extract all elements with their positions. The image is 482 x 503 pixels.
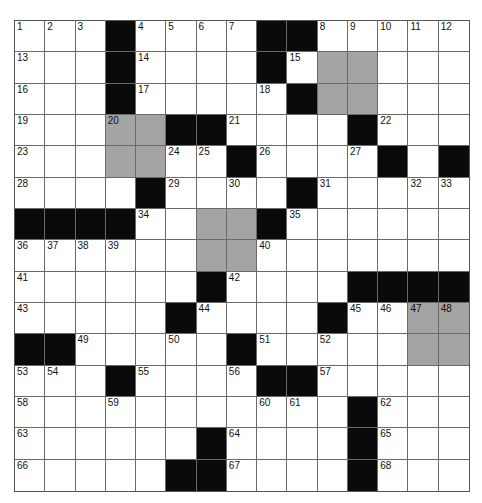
grid-cell[interactable]	[76, 146, 106, 177]
grid-cell[interactable]	[439, 366, 469, 397]
grid-cell[interactable]	[408, 366, 438, 397]
grid-cell[interactable]: 4	[136, 21, 166, 52]
grid-cell[interactable]: 6	[197, 21, 227, 52]
grid-cell[interactable]: 17	[136, 84, 166, 115]
grid-cell[interactable]	[166, 366, 196, 397]
grid-cell[interactable]	[76, 428, 106, 459]
grid-cell[interactable]: 53	[15, 366, 45, 397]
shaded-cell[interactable]: 48	[439, 303, 469, 334]
grid-cell[interactable]	[227, 303, 257, 334]
grid-cell[interactable]: 37	[45, 240, 75, 271]
grid-cell[interactable]: 33	[439, 178, 469, 209]
grid-cell[interactable]	[378, 209, 408, 240]
grid-cell[interactable]: 35	[287, 209, 317, 240]
shaded-cell[interactable]	[348, 52, 378, 83]
grid-cell[interactable]	[287, 334, 317, 365]
grid-cell[interactable]	[227, 52, 257, 83]
grid-cell[interactable]	[439, 460, 469, 491]
grid-cell[interactable]	[76, 178, 106, 209]
shaded-cell[interactable]: 47	[408, 303, 438, 334]
grid-cell[interactable]	[76, 397, 106, 428]
grid-cell[interactable]	[166, 52, 196, 83]
grid-cell[interactable]: 15	[287, 52, 317, 83]
grid-cell[interactable]	[348, 366, 378, 397]
grid-cell[interactable]: 21	[227, 115, 257, 146]
grid-cell[interactable]	[318, 460, 348, 491]
grid-cell[interactable]: 56	[227, 366, 257, 397]
grid-cell[interactable]: 43	[15, 303, 45, 334]
grid-cell[interactable]	[439, 428, 469, 459]
grid-cell[interactable]	[439, 397, 469, 428]
grid-cell[interactable]: 41	[15, 272, 45, 303]
grid-cell[interactable]	[378, 52, 408, 83]
grid-cell[interactable]	[45, 397, 75, 428]
grid-cell[interactable]	[45, 52, 75, 83]
grid-cell[interactable]: 39	[106, 240, 136, 271]
grid-cell[interactable]: 27	[348, 146, 378, 177]
grid-cell[interactable]	[257, 303, 287, 334]
grid-cell[interactable]	[106, 178, 136, 209]
grid-cell[interactable]: 50	[166, 334, 196, 365]
grid-cell[interactable]	[45, 84, 75, 115]
grid-cell[interactable]	[45, 460, 75, 491]
grid-cell[interactable]: 68	[378, 460, 408, 491]
grid-cell[interactable]	[408, 52, 438, 83]
grid-cell[interactable]: 44	[197, 303, 227, 334]
grid-cell[interactable]	[166, 209, 196, 240]
grid-cell[interactable]	[197, 84, 227, 115]
grid-cell[interactable]	[348, 240, 378, 271]
shaded-cell[interactable]	[227, 209, 257, 240]
grid-cell[interactable]: 22	[378, 115, 408, 146]
shaded-cell[interactable]	[197, 209, 227, 240]
grid-cell[interactable]	[227, 84, 257, 115]
grid-cell[interactable]: 26	[257, 146, 287, 177]
grid-cell[interactable]	[136, 428, 166, 459]
grid-cell[interactable]: 1	[15, 21, 45, 52]
grid-cell[interactable]: 7	[227, 21, 257, 52]
grid-cell[interactable]: 60	[257, 397, 287, 428]
grid-cell[interactable]	[287, 272, 317, 303]
grid-cell[interactable]: 38	[76, 240, 106, 271]
grid-cell[interactable]	[45, 146, 75, 177]
grid-cell[interactable]	[197, 178, 227, 209]
grid-cell[interactable]	[106, 428, 136, 459]
grid-cell[interactable]: 9	[348, 21, 378, 52]
grid-cell[interactable]: 13	[15, 52, 45, 83]
grid-cell[interactable]: 46	[378, 303, 408, 334]
grid-cell[interactable]	[287, 146, 317, 177]
grid-cell[interactable]	[76, 460, 106, 491]
grid-cell[interactable]: 52	[318, 334, 348, 365]
grid-cell[interactable]	[318, 272, 348, 303]
shaded-cell[interactable]	[227, 240, 257, 271]
grid-cell[interactable]	[76, 52, 106, 83]
grid-cell[interactable]	[106, 334, 136, 365]
grid-cell[interactable]	[318, 209, 348, 240]
grid-cell[interactable]	[378, 334, 408, 365]
grid-cell[interactable]: 57	[318, 366, 348, 397]
grid-cell[interactable]	[287, 303, 317, 334]
grid-cell[interactable]: 58	[15, 397, 45, 428]
grid-cell[interactable]: 12	[439, 21, 469, 52]
grid-cell[interactable]	[408, 460, 438, 491]
grid-cell[interactable]	[318, 146, 348, 177]
grid-cell[interactable]: 59	[106, 397, 136, 428]
grid-cell[interactable]: 66	[15, 460, 45, 491]
shaded-cell[interactable]	[136, 115, 166, 146]
grid-cell[interactable]	[287, 460, 317, 491]
grid-cell[interactable]	[439, 240, 469, 271]
grid-cell[interactable]	[136, 397, 166, 428]
grid-cell[interactable]	[136, 460, 166, 491]
grid-cell[interactable]	[408, 209, 438, 240]
grid-cell[interactable]: 23	[15, 146, 45, 177]
grid-cell[interactable]	[378, 178, 408, 209]
grid-cell[interactable]	[348, 334, 378, 365]
grid-cell[interactable]	[197, 366, 227, 397]
grid-cell[interactable]	[318, 428, 348, 459]
grid-cell[interactable]: 65	[378, 428, 408, 459]
grid-cell[interactable]	[136, 272, 166, 303]
grid-cell[interactable]: 24	[166, 146, 196, 177]
grid-cell[interactable]	[287, 115, 317, 146]
grid-cell[interactable]	[408, 240, 438, 271]
grid-cell[interactable]: 11	[408, 21, 438, 52]
grid-cell[interactable]	[76, 115, 106, 146]
